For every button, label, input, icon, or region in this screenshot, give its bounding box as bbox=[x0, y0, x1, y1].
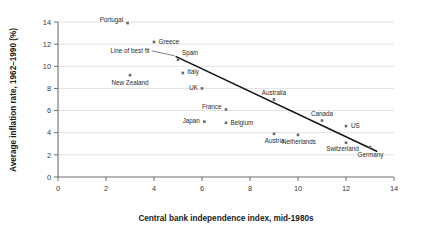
data-point-marker bbox=[297, 134, 300, 137]
data-point-label: Switzerland bbox=[326, 145, 359, 152]
x-tick-label: 8 bbox=[248, 184, 252, 193]
data-point-marker bbox=[129, 74, 132, 77]
x-tick-label: 2 bbox=[104, 184, 108, 193]
data-point-marker bbox=[225, 108, 228, 111]
x-axis-title: Central bank independence index, mid-198… bbox=[138, 214, 314, 223]
data-point-label: Netherlands bbox=[282, 138, 316, 145]
data-point-label: Canada bbox=[311, 110, 334, 117]
data-point-marker bbox=[321, 119, 324, 122]
data-point-label: Belgium bbox=[231, 119, 254, 127]
data-point-label: UK bbox=[189, 84, 199, 91]
data-point-label: France bbox=[202, 103, 222, 110]
scatter-chart: 02468101214 02468101214 Line of best fit… bbox=[0, 0, 421, 233]
data-point-marker bbox=[182, 72, 185, 75]
data-point-label: Japan bbox=[183, 117, 201, 125]
data-point-marker bbox=[369, 146, 372, 149]
x-tick-label: 0 bbox=[56, 184, 60, 193]
y-axis-title: Average inflation rate, 1962–1990 (%) bbox=[9, 28, 18, 172]
data-point-marker bbox=[201, 87, 204, 90]
data-point-label: Australia bbox=[262, 89, 287, 96]
data-point-marker bbox=[273, 133, 276, 136]
y-tick-label: 10 bbox=[43, 62, 51, 71]
data-point-label: New Zealand bbox=[111, 79, 149, 86]
data-point-marker bbox=[225, 121, 228, 124]
x-tick-label: 12 bbox=[342, 184, 350, 193]
line-of-best-fit-label: Line of best fit bbox=[110, 47, 149, 54]
data-point-label: Italy bbox=[187, 68, 199, 76]
data-point-label: US bbox=[351, 122, 360, 129]
data-point-marker bbox=[345, 141, 348, 144]
x-tick-label: 10 bbox=[294, 184, 302, 193]
data-point-marker bbox=[345, 125, 348, 128]
y-tick-label: 0 bbox=[47, 173, 51, 182]
data-point-marker bbox=[273, 98, 276, 101]
data-point-marker bbox=[153, 41, 156, 44]
y-tick-label: 6 bbox=[47, 106, 51, 115]
data-point-label: Germany bbox=[358, 151, 385, 159]
y-tick-label: 4 bbox=[47, 128, 51, 137]
data-point-label: Portugal bbox=[100, 16, 123, 24]
y-tick-label: 8 bbox=[47, 84, 51, 93]
x-tick-label: 6 bbox=[200, 184, 204, 193]
data-point-marker bbox=[203, 120, 206, 123]
x-tick-label: 14 bbox=[390, 184, 398, 193]
data-point-label: Spain bbox=[182, 49, 199, 57]
y-tick-label: 2 bbox=[47, 151, 51, 160]
chart-canvas: 02468101214 02468101214 Line of best fit… bbox=[0, 0, 421, 233]
data-point-marker bbox=[126, 22, 129, 25]
y-tick-label: 12 bbox=[43, 40, 51, 49]
data-point-label: Greece bbox=[159, 38, 180, 45]
data-point-marker bbox=[177, 58, 180, 61]
x-tick-label: 4 bbox=[152, 184, 156, 193]
chart-background bbox=[0, 0, 421, 233]
y-tick-label: 14 bbox=[43, 18, 51, 27]
